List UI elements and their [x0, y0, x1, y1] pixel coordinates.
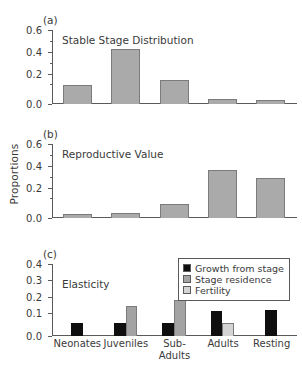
bar-c-juveniles-growth	[114, 323, 126, 336]
panel-a: (a) Stable Stage Distribution 0.6 0.4 0.…	[0, 14, 302, 118]
bar-a-neonates	[63, 85, 92, 104]
panel-a-bars	[53, 30, 295, 104]
legend-label-fertility: Fertility	[195, 286, 231, 296]
x-label-neonates: Neonates	[53, 338, 102, 362]
panel-b-tick-0.4: 0.4	[48, 166, 52, 167]
panel-a-tick-minor-0.1	[50, 84, 53, 85]
bar-c-subadults-growth	[162, 323, 174, 336]
x-label-juveniles-line1: Juveniles	[102, 338, 151, 350]
panel-c-ticklabel-0.0: 0.0	[26, 331, 42, 342]
bar-c-adults-growth	[211, 311, 223, 336]
bar-c-juveniles-residence	[126, 306, 138, 336]
panel-c-ticklabel-0.2: 0.2	[26, 291, 42, 302]
legend-swatch-residence-icon	[183, 275, 191, 283]
panel-c-slot-neonates	[53, 264, 101, 336]
panel-c: (c) Elasticity Growth from stage Stage r…	[0, 248, 302, 379]
legend-item-stage-residence: Stage residence	[183, 275, 284, 285]
panel-c-group-neonates	[53, 264, 101, 336]
panel-b-slot-adults	[198, 144, 246, 218]
panel-b-ticklabel-0.0: 0.0	[26, 213, 42, 224]
panel-b-bars	[53, 144, 295, 218]
legend-swatch-fertility-icon	[183, 286, 191, 294]
panel-a-ticklabel-0.0: 0.0	[26, 99, 42, 110]
bar-a-resting	[256, 100, 285, 104]
legend-item-growth-from-stage: Growth from stage	[183, 264, 284, 274]
x-label-neonates-line1: Neonates	[53, 338, 102, 350]
panel-b: (b) Reproductive Value 0.6 0.4 0.2 0.0	[0, 128, 302, 232]
bar-a-adults	[208, 99, 237, 104]
panel-a-slot-resting	[247, 30, 295, 104]
panel-b-ticklabel-0.6: 0.6	[26, 139, 42, 150]
panel-a-ticklabel-0.6: 0.6	[26, 25, 42, 36]
panel-b-slot-juveniles	[101, 144, 149, 218]
panel-a-tick-0.6: 0.6	[48, 30, 52, 31]
panel-b-plot: 0.6 0.4 0.2 0.0	[52, 144, 295, 218]
bar-b-subadults	[160, 204, 189, 218]
panel-b-slot-resting	[247, 144, 295, 218]
bar-c-subadults-residence	[174, 300, 186, 336]
panel-c-tick-0.2: 0.2	[48, 297, 52, 298]
panel-b-tick-0.0: 0.0	[48, 218, 52, 219]
panel-a-slot-neonates	[53, 30, 101, 104]
panel-a-slot-juveniles	[101, 30, 149, 104]
panel-a-tick-0.4: 0.4	[48, 52, 52, 53]
panel-b-tick-0.6: 0.6	[48, 144, 52, 145]
panel-a-tick-0.0: 0.0	[48, 104, 52, 105]
x-label-resting: Resting	[247, 338, 296, 362]
panel-a-plot: 0.6 0.4 0.2 0.0	[52, 30, 295, 104]
panel-c-tick-0.0: 0.0	[48, 336, 52, 337]
bar-c-neonates-growth	[71, 323, 83, 336]
panel-c-ticklabel-0.1: 0.1	[26, 308, 42, 319]
x-label-adults-line1: Adults	[199, 338, 248, 350]
legend: Growth from stage Stage residence Fertil…	[178, 258, 290, 301]
panel-a-letter: (a)	[43, 14, 58, 26]
panel-b-tick-minor-0.3	[50, 177, 53, 178]
bar-b-neonates	[63, 214, 92, 218]
panel-a-tick-0.2: 0.2	[48, 74, 52, 75]
figure-root: Proportions (a) Stable Stage Distributio…	[0, 0, 302, 379]
bar-c-resting-growth	[265, 310, 277, 336]
panel-b-letter: (b)	[43, 128, 58, 140]
panel-b-slot-neonates	[53, 144, 101, 218]
panel-c-tick-0.3: 0.3	[48, 280, 52, 281]
panel-c-tick-0.4: 0.4	[48, 264, 52, 265]
legend-swatch-growth-icon	[183, 264, 191, 272]
bar-b-juveniles	[111, 213, 140, 218]
bar-a-juveniles	[111, 49, 140, 105]
panel-c-slot-juveniles	[101, 264, 149, 336]
x-label-adults: Adults	[199, 338, 248, 362]
bar-c-adults-fertility	[222, 323, 234, 336]
legend-item-fertility: Fertility	[183, 286, 284, 296]
bar-b-resting	[256, 178, 285, 218]
panel-b-ticklabel-0.4: 0.4	[26, 160, 42, 171]
x-label-juveniles: Juveniles	[102, 338, 151, 362]
x-label-subadults-line2: Adults	[150, 350, 199, 362]
panel-b-ticklabel-0.2: 0.2	[26, 182, 42, 193]
panel-a-tick-minor-0.3	[50, 63, 53, 64]
panel-c-ticklabel-0.4: 0.4	[26, 259, 42, 270]
panel-a-tick-minor-0.5	[50, 41, 53, 42]
panel-a-slot-adults	[198, 30, 246, 104]
panel-c-group-juveniles	[101, 264, 149, 336]
x-label-subadults: Sub- Adults	[150, 338, 199, 362]
x-label-resting-line1: Resting	[247, 338, 296, 350]
panel-b-tick-0.2: 0.2	[48, 188, 52, 189]
panel-a-slot-subadults	[150, 30, 198, 104]
panel-c-letter: (c)	[43, 248, 57, 260]
legend-label-stage-residence: Stage residence	[195, 275, 272, 285]
panel-a-ticklabel-0.4: 0.4	[26, 46, 42, 57]
x-axis-labels: Neonates Juveniles Sub- Adults Adults Re…	[53, 338, 296, 362]
x-label-subadults-line1: Sub-	[150, 338, 199, 350]
bar-b-adults	[208, 170, 237, 218]
panel-a-ticklabel-0.2: 0.2	[26, 68, 42, 79]
legend-label-growth-from-stage: Growth from stage	[195, 264, 284, 274]
panel-c-tick-0.1: 0.1	[48, 313, 52, 314]
panel-c-ticklabel-0.3: 0.3	[26, 275, 42, 286]
panel-b-tick-minor-0.5	[50, 155, 53, 156]
panel-b-slot-subadults	[150, 144, 198, 218]
bar-a-subadults	[160, 80, 189, 104]
panel-b-tick-minor-0.1	[50, 198, 53, 199]
